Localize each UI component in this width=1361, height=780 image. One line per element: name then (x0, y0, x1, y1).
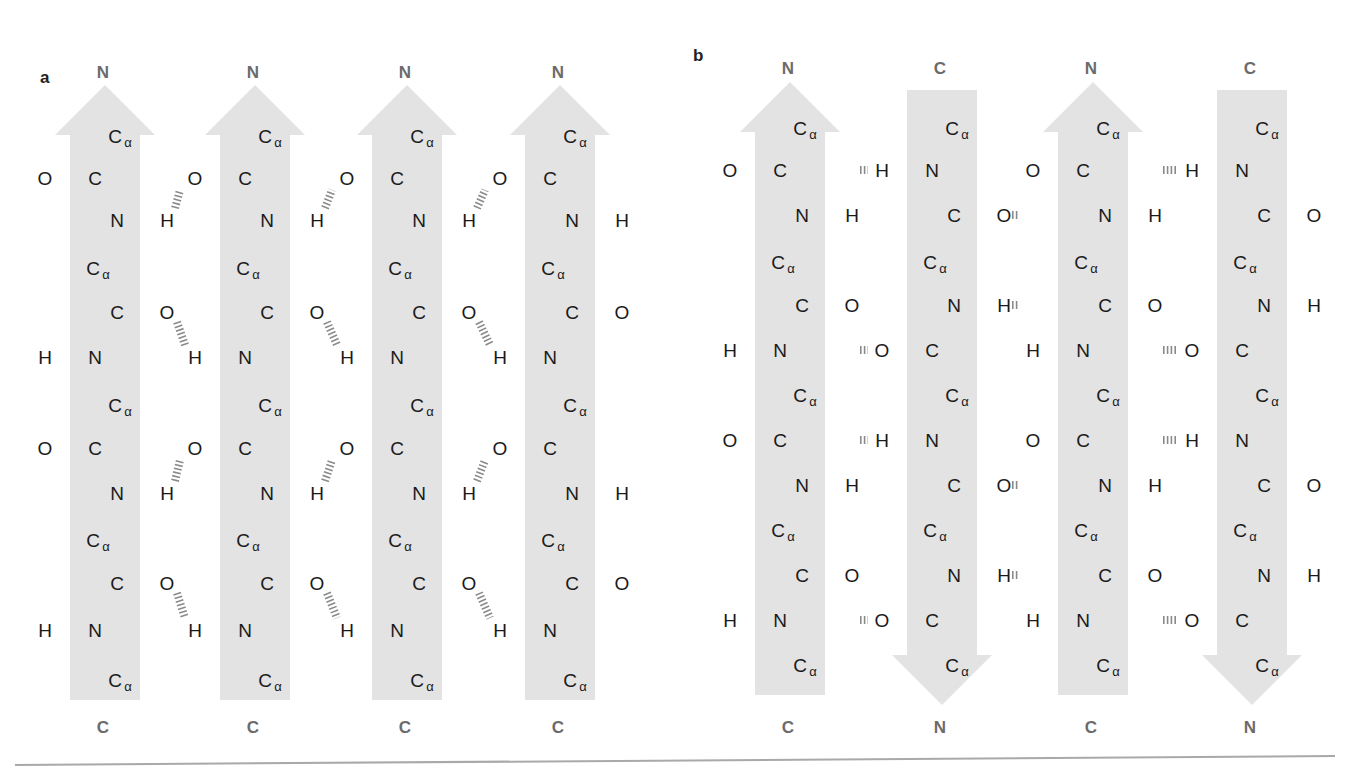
strand-arrow-up (55, 85, 155, 700)
alpha-carbon: C (258, 395, 272, 416)
alpha-carbon: C (86, 530, 100, 551)
strand-arrow-up (740, 82, 840, 695)
terminus-bottom: C (247, 718, 259, 737)
carbonyl-oxygen: O (615, 302, 630, 323)
alpha-carbon: C (236, 530, 250, 551)
alpha-carbon: C (410, 395, 424, 416)
alpha-subscript: α (961, 394, 969, 409)
amide-nitrogen: N (1098, 205, 1112, 226)
alpha-carbon: C (1233, 252, 1247, 273)
strand-arrow-up (357, 85, 457, 700)
hydrogen-bond (479, 322, 490, 345)
carbonyl-oxygen: O (845, 295, 860, 316)
amide-nitrogen: N (1235, 160, 1249, 181)
hydrogen-bond (477, 190, 485, 208)
alpha-subscript: α (809, 394, 817, 409)
amide-nitrogen: N (1098, 475, 1112, 496)
hydrogen-bond (177, 593, 185, 618)
carbonyl-carbon: C (947, 205, 961, 226)
carbonyl-carbon: C (260, 573, 274, 594)
amide-nitrogen: N (1257, 565, 1271, 586)
alpha-carbon: C (1096, 655, 1110, 676)
alpha-carbon: C (563, 126, 577, 147)
amide-hydrogen: H (493, 347, 507, 368)
carbonyl-oxygen: O (1307, 205, 1322, 226)
amide-nitrogen: N (543, 347, 557, 368)
alpha-carbon: C (793, 385, 807, 406)
carbonyl-carbon: C (1235, 340, 1249, 361)
strand-arrow-down (892, 90, 992, 705)
amide-hydrogen: H (845, 475, 859, 496)
terminus-bottom: C (1085, 718, 1097, 737)
carbonyl-oxygen: O (875, 340, 890, 361)
alpha-subscript: α (252, 539, 260, 554)
amide-nitrogen: N (565, 210, 579, 231)
amide-hydrogen: H (188, 347, 202, 368)
carbonyl-carbon: C (773, 430, 787, 451)
alpha-subscript: α (1271, 664, 1279, 679)
carbonyl-carbon: C (1098, 565, 1112, 586)
hydrogen-bond (175, 460, 180, 481)
carbonyl-carbon: C (1076, 160, 1090, 181)
alpha-subscript: α (426, 404, 434, 419)
alpha-subscript: α (102, 539, 110, 554)
carbonyl-carbon: C (795, 565, 809, 586)
amide-hydrogen: H (310, 483, 324, 504)
alpha-carbon: C (258, 126, 272, 147)
amide-nitrogen: N (947, 565, 961, 586)
alpha-carbon: C (945, 655, 959, 676)
carbonyl-carbon: C (795, 295, 809, 316)
amide-nitrogen: N (260, 210, 274, 231)
amide-hydrogen: H (1148, 475, 1162, 496)
terminus-bottom: N (1244, 718, 1256, 737)
alpha-carbon: C (1074, 252, 1088, 273)
amide-nitrogen: N (1257, 295, 1271, 316)
amide-nitrogen: N (88, 620, 102, 641)
alpha-subscript: α (1271, 127, 1279, 142)
amide-hydrogen: H (38, 620, 52, 641)
amide-nitrogen: N (925, 160, 939, 181)
hydrogen-bond (175, 190, 180, 208)
strand-arrow-down (1202, 90, 1302, 705)
amide-nitrogen: N (110, 483, 124, 504)
terminus-top: N (782, 59, 794, 78)
alpha-carbon: C (108, 126, 122, 147)
alpha-carbon: C (236, 258, 250, 279)
alpha-subscript: α (557, 267, 565, 282)
alpha-carbon: C (1255, 385, 1269, 406)
carbonyl-oxygen: O (188, 438, 203, 459)
alpha-subscript: α (1112, 664, 1120, 679)
carbonyl-carbon: C (565, 302, 579, 323)
amide-nitrogen: N (238, 620, 252, 641)
carbonyl-carbon: C (773, 160, 787, 181)
terminus-top: N (247, 63, 259, 82)
carbonyl-carbon: C (543, 168, 557, 189)
amide-nitrogen: N (88, 347, 102, 368)
alpha-subscript: α (274, 135, 282, 150)
carbonyl-carbon: C (1257, 475, 1271, 496)
amide-hydrogen: H (997, 565, 1011, 586)
hydrogen-bond (477, 460, 485, 481)
amide-hydrogen: H (845, 205, 859, 226)
amide-nitrogen: N (773, 340, 787, 361)
alpha-subscript: α (426, 679, 434, 694)
alpha-carbon: C (108, 395, 122, 416)
alpha-subscript: α (579, 404, 587, 419)
amide-hydrogen: H (160, 210, 174, 231)
alpha-carbon: C (86, 258, 100, 279)
alpha-carbon: C (1233, 520, 1247, 541)
amide-hydrogen: H (1307, 295, 1321, 316)
alpha-subscript: α (124, 135, 132, 150)
carbonyl-oxygen: O (340, 168, 355, 189)
amide-hydrogen: H (615, 483, 629, 504)
carbonyl-oxygen: O (493, 438, 508, 459)
terminus-bottom: C (782, 718, 794, 737)
alpha-subscript: α (1249, 529, 1257, 544)
carbonyl-carbon: C (412, 302, 426, 323)
carbonyl-oxygen: O (723, 160, 738, 181)
carbonyl-oxygen: O (1185, 610, 1200, 631)
alpha-carbon: C (1096, 118, 1110, 139)
carbonyl-carbon: C (1235, 610, 1249, 631)
alpha-carbon: C (1074, 520, 1088, 541)
carbonyl-oxygen: O (997, 475, 1012, 496)
